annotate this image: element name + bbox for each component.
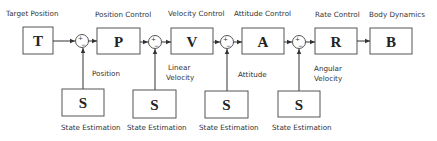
plus-sign: + — [78, 34, 83, 41]
block-rate-letter: R — [331, 34, 342, 50]
block-position-control: P — [97, 28, 140, 54]
block-target-letter: T — [33, 33, 43, 49]
estimator-letter: S — [79, 95, 87, 111]
title-position-control: Position Control — [95, 10, 151, 19]
summing-junction-1: + − — [76, 34, 89, 48]
title-attitude-control: Attitude Control — [234, 9, 291, 18]
plus-sign: + — [295, 35, 300, 42]
state-estimator-1: S — [62, 89, 104, 116]
control-block-diagram: Target Position Position Control Velocit… — [0, 0, 437, 141]
feedback-label-position: Position — [92, 69, 120, 78]
state-estimator-4: S — [278, 91, 320, 117]
feedback-label-linear: Linear — [168, 63, 190, 72]
feedback-label-angular: Angular — [314, 64, 342, 73]
state-estimator-2: S — [133, 90, 176, 118]
feedback-label-attitude: Attitude — [238, 70, 267, 79]
minus-sign: − — [154, 42, 159, 49]
block-body-letter: B — [386, 34, 396, 50]
plus-sign: + — [151, 35, 156, 42]
estimator-caption-4: State Estimation — [272, 123, 332, 132]
estimator-letter: S — [295, 97, 303, 113]
block-attitude-letter: A — [258, 34, 269, 50]
block-body-dynamics: B — [370, 28, 412, 54]
feedback-label-velocity: Velocity — [166, 73, 195, 82]
minus-sign: − — [226, 42, 231, 49]
estimator-caption-1: State Estimation — [61, 123, 121, 132]
title-target-position: Target Position — [5, 9, 59, 18]
feedback-label-velocity-angular: Velocity — [314, 74, 343, 83]
estimator-caption-2: State Estimation — [127, 123, 187, 132]
minus-sign: − — [298, 42, 303, 49]
estimator-caption-3: State Estimation — [199, 123, 259, 132]
block-velocity-control: V — [171, 28, 213, 54]
block-attitude-control: A — [242, 28, 284, 54]
minus-sign: − — [81, 41, 86, 48]
block-target: T — [23, 27, 53, 54]
block-velocity-letter: V — [187, 34, 198, 50]
state-estimator-3: S — [205, 91, 248, 118]
title-velocity-control: Velocity Control — [168, 9, 224, 18]
estimator-letter: S — [150, 97, 158, 113]
summing-junction-3: + − — [221, 35, 234, 49]
summing-junction-4: + − — [293, 35, 306, 49]
estimator-letter: S — [222, 97, 230, 113]
block-position-letter: P — [114, 34, 123, 50]
block-rate-control: R — [315, 28, 357, 54]
title-body-dynamics: Body Dynamics — [369, 10, 425, 19]
title-rate-control: Rate Control — [315, 10, 360, 19]
summing-junction-2: + − — [149, 35, 162, 49]
plus-sign: + — [223, 35, 228, 42]
